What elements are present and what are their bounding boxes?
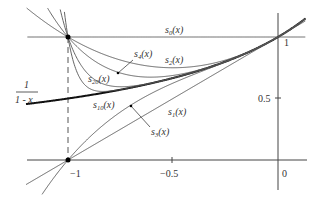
series-diagram: −1 −0.5 0 0.5 1 1 1 - x s0(x) s4(x) s2(x… (0, 0, 327, 200)
label-s0: s0(x) (165, 24, 184, 36)
s4-leader-dot (117, 72, 120, 75)
s4-leader (118, 60, 133, 73)
point-minus1-0 (66, 158, 71, 163)
s3-leader-dot (130, 105, 133, 108)
point-minus1-1 (66, 35, 71, 40)
x-tick-label-neg1: −1 (70, 168, 81, 179)
label-s20: s20(x) (88, 73, 110, 85)
x-tick-label-0: 0 (282, 168, 287, 179)
label-s2: s2(x) (165, 54, 184, 66)
y-tick-label-half: 0.5 (258, 93, 271, 104)
main-curve-denominator: 1 - x (15, 94, 33, 105)
label-s1: s1(x) (168, 106, 187, 118)
label-s10: s10(x) (93, 99, 115, 111)
s3-leader (131, 106, 150, 127)
y-tick-label-1: 1 (284, 37, 289, 48)
x-tick-label-neg-half: −0.5 (160, 168, 178, 179)
main-curve-numerator: 1 (24, 79, 29, 90)
label-s4: s4(x) (134, 48, 153, 60)
label-s3: s3(x) (151, 126, 170, 138)
